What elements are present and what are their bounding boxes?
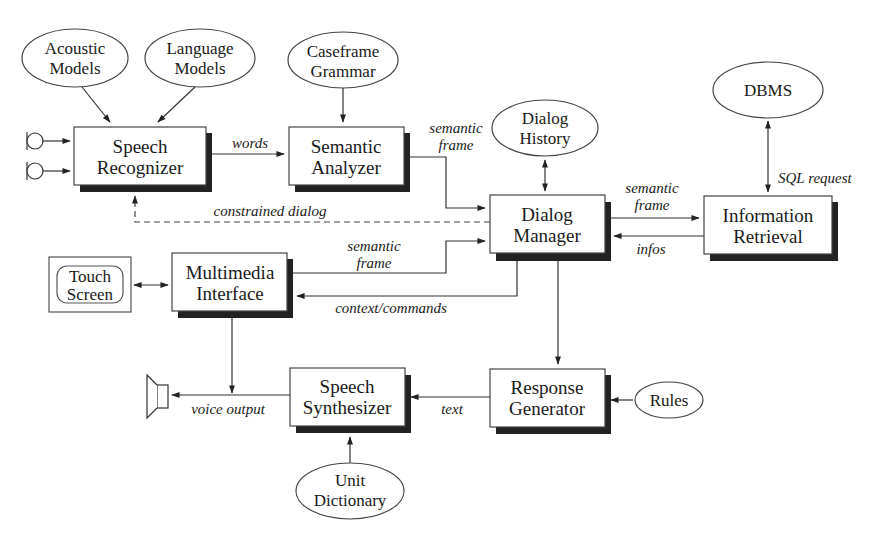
svg-text:Rules: Rules	[650, 391, 689, 410]
words-label: words	[232, 135, 268, 151]
rules-ellipse: Rules	[635, 382, 703, 418]
svg-text:Multimedia: Multimedia	[186, 262, 275, 283]
svg-text:Interface: Interface	[196, 283, 264, 304]
touch-screen-box: Touch Screen	[49, 257, 131, 312]
sql-request-label: SQL request	[778, 170, 853, 186]
language-to-recognizer-arrow	[158, 87, 195, 122]
svg-text:Manager: Manager	[513, 225, 581, 246]
text-label: text	[441, 401, 463, 417]
context-commands-label: context/commands	[335, 300, 447, 316]
acoustic-to-recognizer-arrow	[82, 87, 110, 122]
svg-text:Acoustic: Acoustic	[45, 39, 106, 58]
svg-text:Generator: Generator	[509, 398, 586, 419]
svg-text:DBMS: DBMS	[744, 81, 792, 100]
speaker-icon	[147, 375, 168, 418]
svg-text:Dialog: Dialog	[521, 204, 573, 225]
microphone-icon	[27, 132, 70, 150]
svg-text:Grammar: Grammar	[310, 62, 375, 81]
svg-text:Touch: Touch	[69, 267, 112, 286]
dialog-history-ellipse: Dialog History	[492, 100, 598, 156]
acoustic-models-ellipse: Acoustic Models	[22, 29, 128, 87]
svg-text:Models: Models	[50, 59, 101, 78]
svg-text:Semantic: Semantic	[311, 136, 382, 157]
svg-text:Speech: Speech	[113, 136, 168, 157]
svg-text:Dialog: Dialog	[522, 109, 569, 128]
dbms-ellipse: DBMS	[713, 62, 823, 118]
svg-text:Dictionary: Dictionary	[314, 491, 387, 510]
response-generator-box: Response Generator	[490, 369, 611, 434]
semantic-frame-label: semantic	[625, 180, 679, 196]
semantic-frame-label: frame	[439, 137, 474, 153]
semantic-frame-label: semantic	[429, 120, 483, 136]
language-models-ellipse: Language Models	[145, 29, 255, 87]
unit-dictionary-ellipse: Unit Dictionary	[296, 463, 404, 519]
context-commands-arrow	[297, 261, 517, 296]
analyzer-to-manager-arrow	[410, 157, 485, 208]
semantic-analyzer-box: Semantic Analyzer	[289, 127, 410, 192]
svg-text:Speech: Speech	[320, 376, 375, 397]
semantic-frame-label: frame	[635, 197, 670, 213]
information-retrieval-box: Information Retrieval	[704, 196, 838, 261]
svg-text:Analyzer: Analyzer	[311, 157, 381, 178]
semantic-frame-label: frame	[357, 255, 392, 271]
svg-text:History: History	[520, 129, 572, 148]
svg-text:Response: Response	[511, 377, 584, 398]
svg-text:Models: Models	[175, 59, 226, 78]
svg-text:Screen: Screen	[67, 285, 114, 304]
semantic-frame-label: semantic	[347, 238, 401, 254]
speech-recognizer-box: Speech Recognizer	[74, 127, 212, 192]
dialog-manager-box: Dialog Manager	[490, 195, 611, 261]
infos-label: infos	[636, 241, 665, 257]
svg-text:Recognizer: Recognizer	[97, 157, 184, 178]
svg-text:Caseframe: Caseframe	[307, 42, 380, 61]
microphone-icon	[27, 162, 70, 180]
constrained-dialog-label: constrained dialog	[214, 203, 327, 219]
svg-text:Language: Language	[166, 39, 233, 58]
multimedia-interface-box: Multimedia Interface	[172, 253, 293, 318]
speech-dialog-system-diagram: Acoustic Models Language Models Casefram…	[0, 0, 882, 535]
speech-synthesizer-box: Speech Synthesizer	[290, 368, 411, 433]
svg-text:Synthesizer: Synthesizer	[303, 397, 392, 418]
svg-text:Retrieval: Retrieval	[733, 226, 803, 247]
caseframe-grammar-ellipse: Caseframe Grammar	[288, 32, 398, 88]
svg-text:Information: Information	[723, 205, 814, 226]
svg-text:Unit: Unit	[335, 471, 366, 490]
voice-output-label: voice output	[191, 401, 266, 417]
